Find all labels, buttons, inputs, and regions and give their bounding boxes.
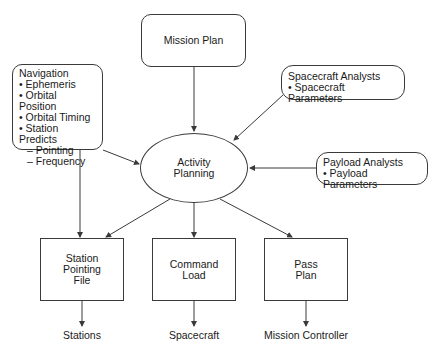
payload-analysts-item: Payload Parameters — [323, 168, 421, 190]
mission-plan-label: Mission Plan — [164, 35, 224, 46]
station-pointing-file-line: File — [63, 275, 101, 286]
stations-output-label: Stations — [42, 329, 122, 341]
pass-plan-line: Pass — [294, 259, 317, 270]
command-load-line: Command — [170, 259, 218, 270]
navigation-node: Navigation Ephemeris Orbital Position Or… — [12, 64, 103, 150]
arrow-spacecraft-to-activity — [234, 95, 283, 140]
activity-planning-line: Planning — [174, 168, 215, 179]
mission-controller-output-label: Mission Controller — [256, 329, 356, 341]
pass-plan-line: Plan — [294, 270, 317, 281]
arrow-navigation-to-activity — [103, 150, 139, 164]
navigation-item: Orbital Position — [19, 90, 96, 112]
mission-plan-node: Mission Plan — [141, 14, 246, 67]
spacecraft-output-label: Spacecraft — [154, 329, 234, 341]
arrow-activity-to-pass-plan — [220, 199, 292, 237]
navigation-item: Station Predicts — [19, 123, 96, 145]
spacecraft-analysts-item: Spacecraft Parameters — [288, 82, 398, 104]
command-load-node: Command Load — [152, 238, 236, 301]
activity-planning-node: Activity Planning — [140, 133, 248, 203]
spacecraft-analysts-node: Spacecraft Analysts Spacecraft Parameter… — [281, 65, 405, 100]
arrow-activity-to-station-file — [106, 199, 170, 237]
command-load-line: Load — [170, 270, 218, 281]
station-pointing-file-node: Station Pointing File — [40, 238, 124, 301]
navigation-subitem: Frequency — [19, 156, 96, 167]
payload-analysts-node: Payload Analysts Payload Parameters — [316, 152, 428, 185]
pass-plan-node: Pass Plan — [264, 238, 348, 301]
